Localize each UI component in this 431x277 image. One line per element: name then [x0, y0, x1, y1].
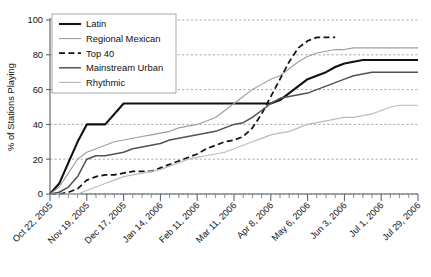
y-tick-label-60: 60: [33, 85, 43, 95]
y-tick-label-80: 80: [33, 50, 43, 60]
y-tick-label-100: 100: [27, 15, 43, 25]
x-tick-label-8: Jun 3, 2006: [308, 200, 349, 241]
x-tick-label-9: Jul 1, 2006: [347, 200, 386, 239]
y-tick-label-40: 40: [33, 120, 43, 130]
x-tick-label-7: May 6, 2006: [270, 200, 312, 242]
legend-label-rhythmic: Rhythmic: [86, 77, 125, 88]
y-tick-label-0: 0: [38, 189, 43, 199]
line-chart: 020406080100% of Stations PlayingOct 22,…: [0, 0, 431, 277]
x-tick-label-6: Apr 8, 2006: [235, 200, 275, 240]
chart-canvas: 020406080100% of Stations PlayingOct 22,…: [0, 0, 431, 277]
series-line-rhythmic: [50, 105, 418, 194]
legend-label-latin: Latin: [86, 18, 106, 29]
legend-label-top-40: Top 40: [86, 48, 114, 59]
legend-label-regional-mexican: Regional Mexican: [86, 33, 161, 44]
y-tick-label-20: 20: [33, 155, 43, 165]
y-axis-title: % of Stations Playing: [6, 63, 16, 151]
legend-label-mainstream-urban: Mainstream Urban: [86, 62, 163, 73]
x-tick-label-10: Jul 29, 2006: [380, 200, 422, 242]
